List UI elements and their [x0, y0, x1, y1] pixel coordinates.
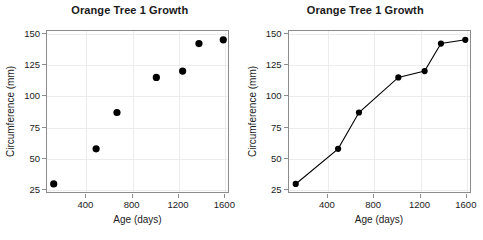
- line-data-point: [355, 109, 361, 115]
- scatter-plot-area: [46, 30, 229, 193]
- line-y-tick-mark: [284, 127, 288, 128]
- scatter-y-tick-label: 125: [14, 58, 40, 69]
- scatter-panel-title: Orange Tree 1 Growth: [0, 4, 242, 16]
- scatter-x-tick-label: 800: [124, 199, 140, 210]
- scatter-y-tick-mark: [42, 64, 46, 65]
- line-y-tick-mark: [284, 158, 288, 159]
- scatter-x-axis-title: Age (days): [46, 214, 229, 225]
- line-y-tick-mark: [284, 189, 288, 190]
- line-x-tick-mark: [466, 194, 467, 198]
- line-y-tick-label: 100: [256, 90, 282, 101]
- scatter-y-tick-mark: [42, 33, 46, 34]
- scatter-data-point: [93, 145, 100, 152]
- scatter-y-axis-title-text: Circumference (mm): [6, 66, 17, 157]
- line-data-layer: [289, 31, 472, 194]
- line-y-tick-label: 125: [256, 58, 282, 69]
- scatter-data-point: [179, 68, 186, 75]
- scatter-panel: Orange Tree 1 Growth Age (days) Circumfe…: [0, 0, 242, 240]
- line-x-tick-label: 400: [319, 199, 335, 210]
- scatter-data-point: [50, 180, 57, 187]
- scatter-data-point: [220, 36, 227, 43]
- scatter-y-tick-label: 25: [14, 184, 40, 195]
- line-y-tick-label: 50: [256, 152, 282, 163]
- line-data-point: [462, 37, 468, 43]
- scatter-y-tick-label: 75: [14, 121, 40, 132]
- scatter-data-point: [195, 40, 202, 47]
- scatter-data-point: [153, 74, 160, 81]
- line-y-tick-mark: [284, 33, 288, 34]
- line-panel: Orange Tree 1 Growth Age (days) Circumfe…: [242, 0, 483, 240]
- scatter-data-point: [113, 109, 120, 116]
- line-x-axis-title: Age (days): [288, 214, 471, 225]
- line-x-tick-label: 1600: [455, 199, 476, 210]
- scatter-x-tick-mark: [178, 194, 179, 198]
- figure-container: Orange Tree 1 Growth Age (days) Circumfe…: [0, 0, 483, 240]
- line-data-point: [292, 181, 298, 187]
- line-x-tick-label: 800: [365, 199, 381, 210]
- scatter-data-layer: [47, 31, 230, 194]
- scatter-x-tick-label: 1600: [214, 199, 235, 210]
- scatter-x-tick-mark: [224, 194, 225, 198]
- line-x-tick-mark: [327, 194, 328, 198]
- line-data-point: [421, 68, 427, 74]
- scatter-y-tick-mark: [42, 127, 46, 128]
- line-data-point: [437, 40, 443, 46]
- line-y-tick-mark: [284, 64, 288, 65]
- line-x-tick-mark: [420, 194, 421, 198]
- scatter-y-axis-title: Circumference (mm): [4, 30, 18, 193]
- line-y-axis-title: Circumference (mm): [246, 30, 260, 193]
- line-y-tick-label: 25: [256, 184, 282, 195]
- line-x-tick-mark: [373, 194, 374, 198]
- scatter-y-tick-mark: [42, 189, 46, 190]
- scatter-x-tick-label: 400: [77, 199, 93, 210]
- line-y-axis-title-text: Circumference (mm): [247, 66, 258, 157]
- line-series-line: [295, 40, 465, 184]
- line-data-point: [335, 146, 341, 152]
- scatter-y-tick-label: 100: [14, 90, 40, 101]
- line-y-tick-label: 75: [256, 121, 282, 132]
- scatter-y-tick-label: 50: [14, 152, 40, 163]
- line-x-tick-label: 1200: [409, 199, 430, 210]
- line-y-tick-mark: [284, 95, 288, 96]
- line-plot-area: [288, 30, 471, 193]
- scatter-y-tick-label: 150: [14, 27, 40, 38]
- scatter-x-tick-label: 1200: [167, 199, 188, 210]
- line-panel-title: Orange Tree 1 Growth: [242, 4, 483, 16]
- scatter-y-tick-mark: [42, 95, 46, 96]
- line-y-tick-label: 150: [256, 27, 282, 38]
- line-data-point: [395, 74, 401, 80]
- scatter-x-tick-mark: [85, 194, 86, 198]
- scatter-x-tick-mark: [132, 194, 133, 198]
- scatter-y-tick-mark: [42, 158, 46, 159]
